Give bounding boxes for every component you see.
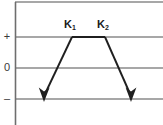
curve-label-k2-base: K	[97, 18, 105, 30]
diagram-canvas	[0, 0, 163, 125]
curve-label-k1-subscript: 1	[72, 24, 76, 31]
waveform-trace	[39, 37, 137, 102]
waveform-right-falling-edge	[105, 37, 131, 96]
curve-label-k1: K1	[64, 19, 76, 30]
curve-label-k2: K2	[97, 19, 109, 30]
left-arrowhead-icon	[39, 88, 50, 103]
waveform-left-falling-edge	[44, 37, 72, 96]
axis-tick-label-zero: 0	[0, 62, 14, 73]
curve-label-k2-subscript: 2	[105, 24, 109, 31]
trapezoidal-waveform-diagram: + 0 – K1 K2	[0, 0, 163, 125]
right-arrowhead-icon	[126, 88, 137, 103]
axis-tick-label-plus: +	[0, 31, 14, 42]
curve-label-k1-base: K	[64, 18, 72, 30]
axis-tick-label-minus: –	[0, 93, 14, 104]
gridline-group	[15, 2, 163, 99]
